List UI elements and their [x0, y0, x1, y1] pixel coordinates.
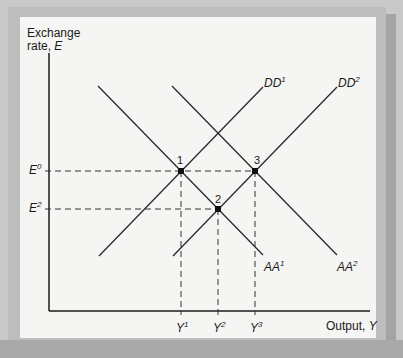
- tick-E2: E2: [29, 202, 41, 215]
- x-axis-label-var: Y: [369, 319, 377, 333]
- label-AA2: AA2: [337, 261, 357, 274]
- x-axis-label-prefix: Output,: [326, 319, 369, 333]
- tick-Y2: Y2: [213, 322, 225, 335]
- point-2-marker: [215, 206, 221, 212]
- label-DD1: DD1: [264, 77, 286, 90]
- y-axis-label-var: E: [54, 39, 62, 53]
- point-1-marker: [178, 168, 184, 174]
- point-2-label: 2: [215, 193, 221, 206]
- diagram-canvas: [0, 0, 403, 358]
- point-1-label: 1: [177, 154, 183, 167]
- tick-E0: E0: [29, 164, 41, 177]
- point-3-marker: [252, 168, 258, 174]
- y-axis-label-prefix: rate,: [27, 39, 54, 53]
- tick-Y3: Y3: [250, 322, 262, 335]
- tick-Y1: Y1: [176, 322, 188, 335]
- x-axis-label: Output, Y: [326, 320, 377, 333]
- y-axis-label: Exchange rate, E: [27, 27, 80, 53]
- label-DD2: DD2: [338, 77, 360, 90]
- label-AA1: AA1: [264, 261, 284, 274]
- point-3-label: 3: [254, 154, 260, 167]
